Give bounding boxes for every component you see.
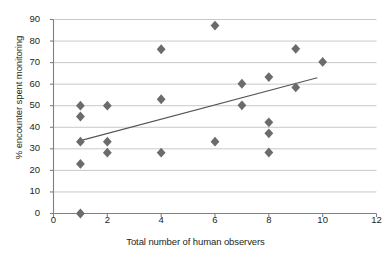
data-point-marker: [211, 137, 220, 147]
data-point-marker: [76, 137, 85, 147]
data-markers: [76, 21, 327, 219]
data-point-marker: [238, 79, 247, 89]
data-point-marker: [238, 100, 247, 110]
trend-line-path: [80, 78, 317, 141]
plot-area: [0, 0, 391, 261]
data-point-marker: [157, 94, 166, 104]
data-point-marker: [157, 44, 166, 54]
data-point-marker: [103, 101, 112, 111]
data-point-marker: [291, 44, 300, 54]
data-point-marker: [264, 117, 273, 127]
data-point-marker: [103, 137, 112, 147]
data-point-marker: [318, 57, 327, 67]
data-point-marker: [264, 72, 273, 82]
data-point-marker: [76, 159, 85, 169]
axis-ticks: [50, 20, 377, 218]
axis-lines: [54, 20, 377, 214]
data-point-marker: [76, 209, 85, 219]
data-point-marker: [264, 128, 273, 138]
gridlines: [54, 20, 377, 192]
trend-line: [80, 78, 317, 141]
data-point-marker: [76, 101, 85, 111]
data-point-marker: [76, 112, 85, 122]
scatter-chart-figure: % encounter spent monitoring Total numbe…: [0, 0, 391, 261]
data-point-marker: [211, 21, 220, 31]
